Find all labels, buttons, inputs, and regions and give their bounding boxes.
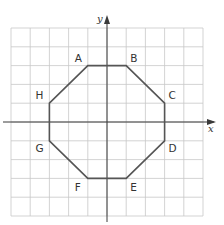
coordinate-grid-figure: x y ABCDEFGH [0, 0, 224, 225]
vertex-label-a: A [75, 52, 83, 64]
vertex-label-h: H [35, 89, 43, 101]
vertex-label-e: E [130, 181, 137, 193]
x-axis-label: x [208, 123, 214, 134]
vertex-label-f: F [75, 181, 81, 193]
vertex-label-c: C [169, 89, 176, 101]
y-axis-label: y [96, 13, 103, 24]
y-axis-arrow-icon [104, 15, 110, 24]
vertex-label-b: B [130, 52, 137, 64]
vertex-label-g: G [35, 142, 43, 154]
vertex-label-d: D [169, 142, 177, 154]
